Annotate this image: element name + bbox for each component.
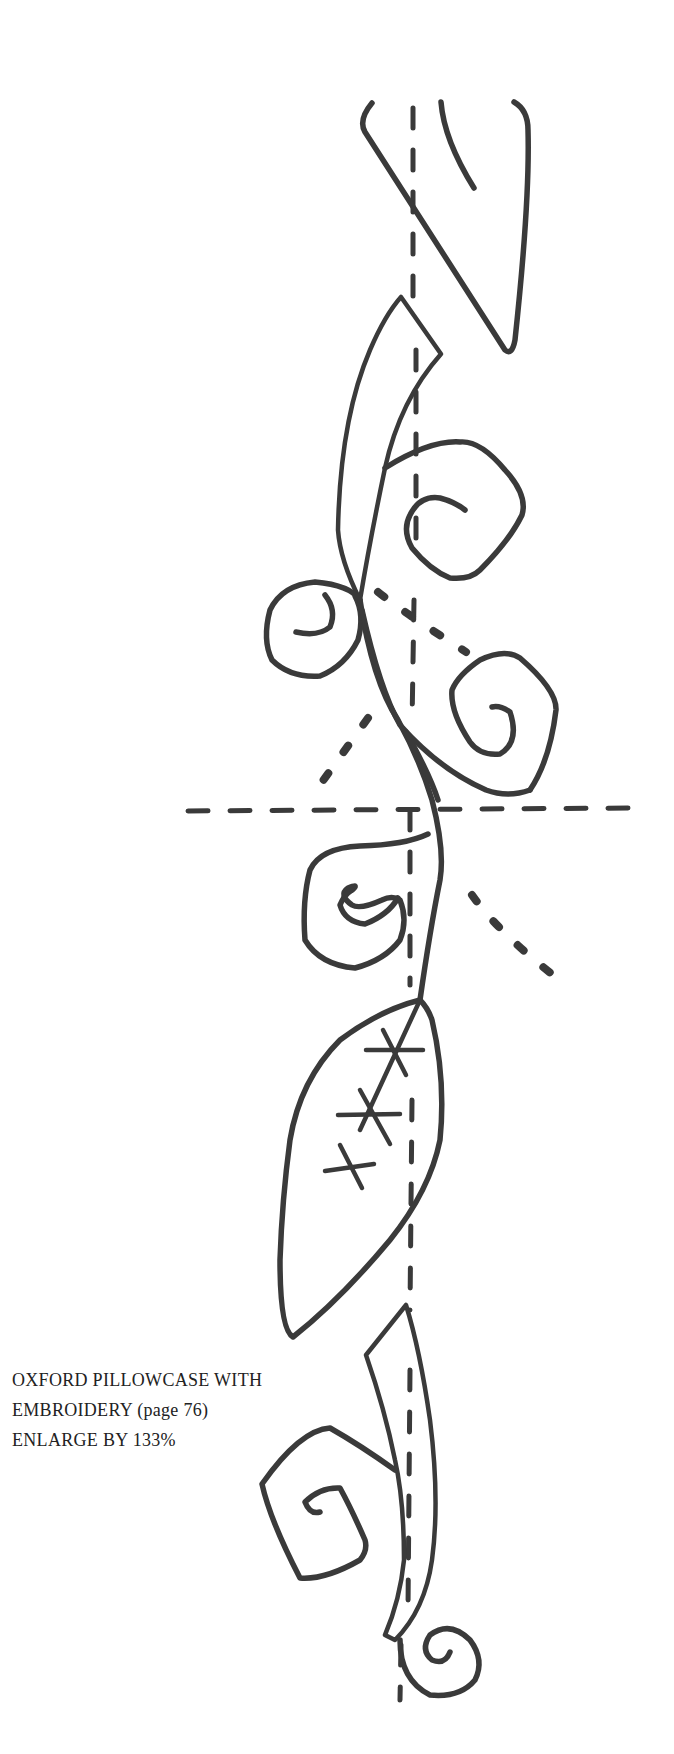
caption-title: OXFORD PILLOWCASE WITH (12, 1365, 262, 1395)
spiral-middle-right (452, 653, 556, 790)
spiral-bottom-left (262, 1428, 395, 1578)
large-lower-leaf (280, 1000, 442, 1337)
pattern-caption: OXFORD PILLOWCASE WITH EMBROIDERY (page … (12, 1365, 262, 1455)
caption-page-ref: EMBROIDERY (page 76) (12, 1395, 262, 1425)
horizontal-guide-line (188, 808, 628, 811)
spiral-left (266, 582, 360, 676)
spiral-upper-right (385, 442, 523, 578)
bottom-stem-leaf (366, 1305, 436, 1640)
main-stem (360, 600, 530, 1000)
cross-stitches (325, 1030, 423, 1188)
embroidery-pattern (0, 0, 674, 1754)
pattern-page: OXFORD PILLOWCASE WITH EMBROIDERY (page … (0, 0, 674, 1754)
spiral-bottom-right (400, 1629, 479, 1696)
caption-enlarge-note: ENLARGE BY 133% (12, 1425, 262, 1455)
